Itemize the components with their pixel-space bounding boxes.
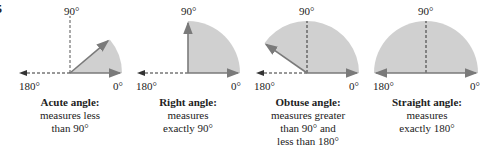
right-180-label: 180° xyxy=(136,80,157,92)
acute-title: Acute angle: xyxy=(15,96,125,109)
right-angle-diagram xyxy=(138,21,240,73)
acute-angle-diagram xyxy=(20,16,122,73)
obtuse-title: Obtuse angle: xyxy=(253,96,363,109)
right-title: Right angle: xyxy=(133,96,243,109)
obtuse-angle-diagram xyxy=(257,21,359,73)
right-0-label: 0° xyxy=(231,80,241,92)
straight-90-label: 90° xyxy=(418,5,433,17)
right-caption: Right angle: measures exactly 90° xyxy=(133,96,243,135)
acute-90-label: 90° xyxy=(64,5,79,17)
right-90-label: 90° xyxy=(181,5,196,17)
straight-angle-diagram xyxy=(374,21,478,73)
acute-180-label: 180° xyxy=(19,80,40,92)
obtuse-180-label: 180° xyxy=(254,80,275,92)
straight-caption: Straight angle: measures exactly 180° xyxy=(372,96,482,135)
straight-180-label: 180° xyxy=(373,80,394,92)
obtuse-0-label: 0° xyxy=(349,80,359,92)
straight-title: Straight angle: xyxy=(372,96,482,109)
acute-caption: Acute angle: measures less than 90° xyxy=(15,96,125,135)
straight-0-label: 0° xyxy=(470,80,480,92)
obtuse-90-label: 90° xyxy=(299,5,314,17)
acute-0-label: 0° xyxy=(113,80,123,92)
obtuse-caption: Obtuse angle: measures greater than 90° … xyxy=(253,96,363,148)
